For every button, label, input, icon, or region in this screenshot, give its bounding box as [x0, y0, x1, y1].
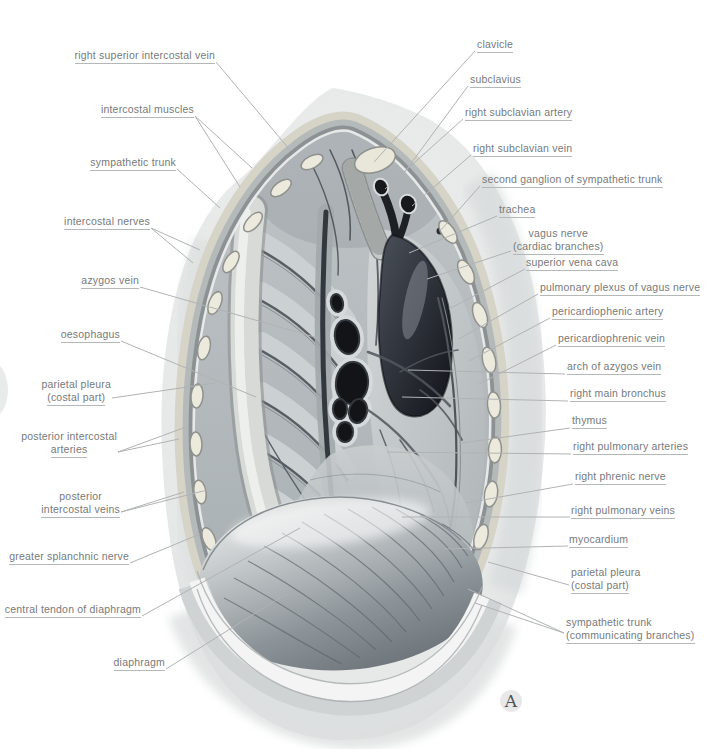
panel-letter-a: A — [500, 691, 522, 711]
label-superior-vena-cava: superior vena cava — [526, 256, 618, 271]
label-text: central tendon of diaphragm — [5, 603, 141, 618]
label-text: parietal pleura — [571, 566, 641, 579]
label-clavicle: clavicle — [477, 38, 513, 53]
label-vagus-nerve-cardiac-branches: vagus nerve(cardiac branches) — [513, 227, 604, 255]
label-text: second ganglion of sympathetic trunk — [482, 173, 663, 188]
label-text: right pulmonary arteries — [573, 440, 688, 455]
label-pericardiophrenic-artery: pericardiophenic artery — [552, 305, 663, 320]
label-text: intercostal nerves — [64, 215, 150, 230]
label-text: superior vena cava — [526, 256, 618, 271]
label-right-pulmonary-arteries: right pulmonary arteries — [573, 440, 688, 455]
label-text: trachea — [499, 203, 535, 218]
label-myocardium: myocardium — [569, 533, 628, 548]
label-posterior-intercostal-arteries: posterior intercostalarteries — [21, 430, 117, 458]
label-text: (cardiac branches) — [513, 240, 604, 255]
label-right-phrenic-nerve: right phrenic nerve — [575, 470, 666, 485]
label-greater-splanchnic-nerve: greater splanchnic nerve — [9, 550, 129, 565]
label-text: right main bronchus — [570, 387, 666, 402]
label-text: myocardium — [569, 533, 628, 548]
label-text: vagus nerve — [513, 227, 604, 240]
label-second-ganglion-of-sympathetic-trunk: second ganglion of sympathetic trunk — [482, 173, 663, 188]
label-text: sympathetic trunk — [90, 156, 176, 171]
label-text: right pulmonary veins — [571, 504, 675, 519]
label-right-main-bronchus: right main bronchus — [570, 387, 666, 402]
label-text: diaphragm — [114, 656, 165, 671]
label-text: pulmonary plexus of vagus nerve — [540, 281, 700, 296]
label-text: sympathetic trunk — [566, 616, 695, 629]
label-text: pericardiophenic artery — [552, 305, 663, 320]
label-pulmonary-plexus-of-vagus-nerve: pulmonary plexus of vagus nerve — [540, 281, 700, 296]
label-oesophagus: oesophagus — [61, 328, 120, 343]
left-arm-sliver — [0, 363, 8, 417]
label-text: azygos vein — [81, 274, 139, 289]
label-text: arteries — [51, 443, 88, 458]
label-posterior-intercostal-veins: posteriorintercostal veins — [41, 490, 120, 518]
label-right-subclavian-vein: right subclavian vein — [473, 142, 572, 157]
label-parietal-pleura-costal-part-right: parietal pleura(costal part) — [571, 566, 641, 594]
label-text: posterior intercostal — [21, 430, 117, 443]
label-intercostal-muscles: intercostal muscles — [101, 103, 194, 118]
label-text: pericardiophrenic vein — [558, 332, 665, 347]
label-text: parietal pleura — [41, 378, 111, 391]
label-right-subclavian-artery: right subclavian artery — [465, 106, 572, 121]
label-azygos-vein: azygos vein — [81, 274, 139, 289]
label-text: (costal part) — [47, 391, 105, 406]
label-thymus: thymus — [572, 414, 607, 429]
label-parietal-pleura-costal-part-left: parietal pleura(costal part) — [41, 378, 111, 406]
label-right-superior-intercostal-vein: right superior intercostal vein — [75, 49, 215, 64]
label-text: oesophagus — [61, 328, 120, 343]
anatomy-figure-page: right superior intercostal vein intercos… — [0, 0, 712, 749]
label-text: right phrenic nerve — [575, 470, 666, 485]
label-text: right superior intercostal vein — [75, 49, 215, 64]
label-intercostal-nerves: intercostal nerves — [64, 215, 150, 230]
label-text: right subclavian artery — [465, 106, 572, 121]
label-sympathetic-trunk-communicating-branches: sympathetic trunk(communicating branches… — [566, 616, 695, 644]
label-diaphragm: diaphragm — [114, 656, 165, 671]
label-central-tendon-of-diaphragm: central tendon of diaphragm — [5, 603, 141, 618]
label-text: (costal part) — [571, 579, 629, 594]
label-text: thymus — [572, 414, 607, 429]
label-text: arch of azygos vein — [567, 360, 661, 375]
label-pericardiophrenic-vein: pericardiophrenic vein — [558, 332, 665, 347]
label-arch-of-azygos-vein: arch of azygos vein — [567, 360, 661, 375]
label-text: right subclavian vein — [473, 142, 572, 157]
label-text: intercostal veins — [41, 503, 120, 518]
label-text: subclavius — [470, 73, 521, 88]
label-text: (communicating branches) — [566, 629, 695, 644]
label-text: posterior — [41, 490, 120, 503]
label-subclavius: subclavius — [470, 73, 521, 88]
label-sympathetic-trunk: sympathetic trunk — [90, 156, 176, 171]
label-text: greater splanchnic nerve — [9, 550, 129, 565]
label-text: clavicle — [477, 38, 513, 53]
label-text: intercostal muscles — [101, 103, 194, 118]
label-trachea: trachea — [499, 203, 535, 218]
label-right-pulmonary-veins: right pulmonary veins — [571, 504, 675, 519]
